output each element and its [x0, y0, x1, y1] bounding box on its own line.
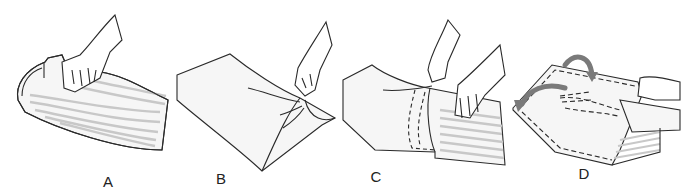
pillowcase-illustration: A B C D: [0, 0, 684, 192]
panel-label-b: B: [216, 170, 226, 187]
panel-a-drawing: [17, 15, 168, 150]
panel-label-a: A: [103, 173, 113, 190]
panel-label-c: C: [371, 168, 382, 185]
panel-d-drawing: [513, 65, 680, 165]
illustration-canvas: [0, 0, 684, 192]
panel-c-drawing: [343, 20, 505, 165]
panel-b-drawing: [177, 22, 335, 171]
panel-label-d: D: [579, 165, 590, 182]
